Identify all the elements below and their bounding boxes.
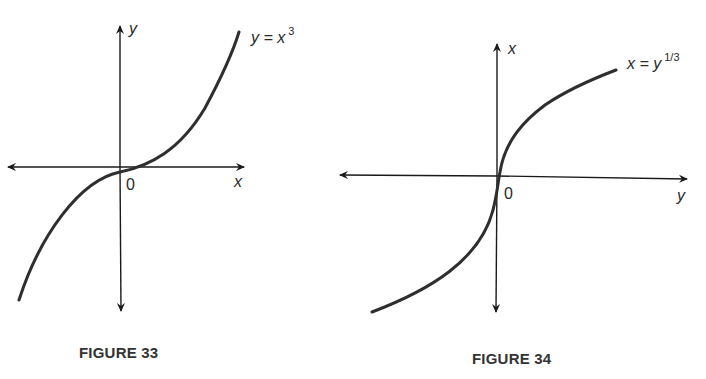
fig34-cube-root-curve <box>372 70 616 312</box>
figure-33 <box>8 26 244 311</box>
fig33-curve-label: y = x3 <box>251 29 294 47</box>
fig34-vertical-axis-label: x <box>508 40 516 58</box>
fig34-origin-label: 0 <box>504 185 513 203</box>
figures-canvas <box>0 0 706 379</box>
fig33-curve-label-lhs: y = x <box>251 29 285 46</box>
fig34-curve-label-exponent: 1/3 <box>664 51 679 63</box>
fig33-origin-label: 0 <box>126 176 135 194</box>
fig33-vertical-axis-label: y <box>129 20 137 38</box>
fig34-curve-label: x = y1/3 <box>627 55 680 73</box>
fig33-cubic-curve <box>19 32 239 300</box>
fig33-curve-label-exponent: 3 <box>288 25 294 37</box>
fig33-y-axis-down <box>120 167 121 311</box>
figure-34 <box>340 44 687 312</box>
fig33-horizontal-axis-label: x <box>234 173 242 191</box>
fig34-y-axis-left <box>340 175 497 176</box>
fig34-caption: FIGURE 34 <box>472 350 551 367</box>
fig34-y-axis-right <box>497 176 687 179</box>
fig33-caption: FIGURE 33 <box>79 344 158 361</box>
fig34-curve-label-lhs: x = y <box>627 55 661 72</box>
fig34-horizontal-axis-label: y <box>677 187 685 205</box>
